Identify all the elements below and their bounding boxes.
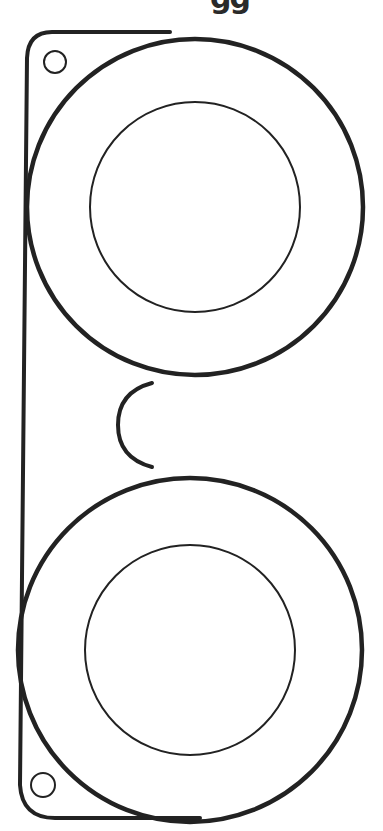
top-lens-outer (27, 39, 363, 375)
frame-outline (20, 32, 200, 818)
top-hole (44, 51, 66, 73)
bottom-lens-outer (18, 478, 362, 822)
nose-bridge (118, 383, 152, 467)
bottom-lens-inner (85, 545, 295, 755)
top-lens-inner (90, 102, 300, 312)
bottom-hole (31, 773, 55, 797)
glasses-template (0, 0, 383, 831)
